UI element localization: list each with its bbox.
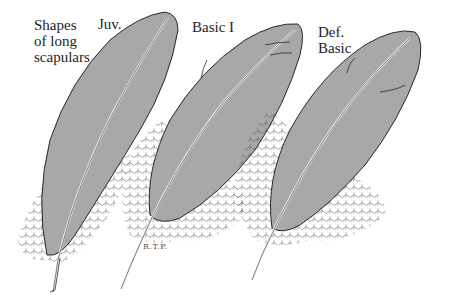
label-definitive-basic: Def. Basic — [318, 24, 351, 56]
figure-title: Shapes of long scapulars — [34, 17, 94, 65]
label-basic-1: Basic I — [192, 19, 234, 35]
artist-signature: R.T.P. — [143, 242, 168, 251]
def-label-line-2: Basic — [318, 40, 351, 56]
def-label-line-1: Def. — [318, 24, 351, 40]
label-juvenile: Juv. — [98, 16, 122, 32]
title-line-1: Shapes — [34, 17, 94, 33]
title-line-2: of long — [34, 33, 94, 49]
title-line-3: scapulars — [34, 49, 94, 65]
